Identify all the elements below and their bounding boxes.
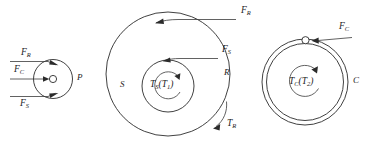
label-f-r-ring-sub: R bbox=[247, 9, 251, 16]
label-f-r-left-sub: R bbox=[27, 51, 31, 58]
label-t-s: TS(T1) bbox=[150, 80, 173, 90]
figure-canvas bbox=[0, 0, 370, 148]
torque-arc-t-r bbox=[213, 102, 227, 131]
label-f-r-ring: FR bbox=[241, 6, 251, 16]
label-f-s-sun-sub: S bbox=[228, 48, 231, 55]
ring-outer-circle bbox=[106, 12, 230, 136]
label-f-s-sun: FS bbox=[222, 45, 231, 55]
carrier-pin-dot bbox=[302, 37, 309, 44]
label-ring-body: R bbox=[224, 68, 230, 77]
label-f-c-carrier-sub: C bbox=[345, 25, 349, 32]
label-t-s-close-paren: ) bbox=[170, 79, 173, 89]
force-arrow-f-s-left bbox=[10, 93, 58, 98]
label-f-c-left: FC bbox=[14, 65, 24, 75]
ring-sun-group bbox=[106, 12, 236, 136]
force-arrow-f-c-carrier bbox=[311, 37, 352, 43]
label-f-c-carrier: FC bbox=[339, 22, 349, 32]
force-arrow-f-c-left bbox=[10, 76, 49, 82]
pulley-hub-dot bbox=[49, 75, 56, 82]
label-t-c: TC(T2) bbox=[289, 77, 313, 87]
label-t-r: TR bbox=[227, 119, 236, 129]
force-arrow-f-r-ring bbox=[155, 19, 236, 24]
label-f-s-left-sub: S bbox=[26, 102, 29, 109]
label-t-r-sub: R bbox=[232, 122, 236, 129]
label-carrier-body: C bbox=[353, 76, 359, 85]
mechanics-figure: FR FC FS P FR FS S R TS(T1) TR FC C TC(T… bbox=[0, 0, 370, 148]
label-sun-body: S bbox=[120, 80, 125, 89]
label-f-r-left: FR bbox=[21, 48, 31, 58]
label-pulley-body: P bbox=[77, 73, 83, 82]
label-t-c-close-paren: ) bbox=[310, 76, 313, 86]
label-f-s-left: FS bbox=[20, 99, 29, 109]
label-f-c-left-sub: C bbox=[20, 68, 24, 75]
